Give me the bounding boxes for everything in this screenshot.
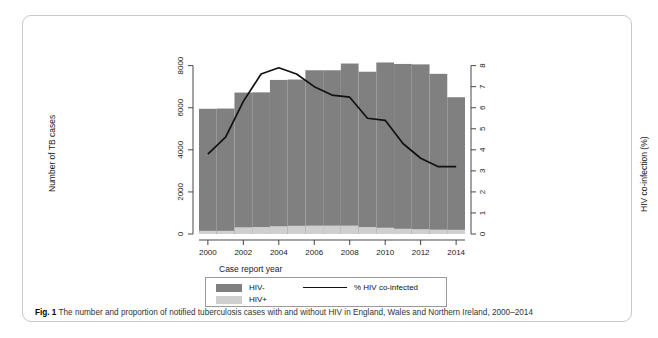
stacked-bar-chart-with-line: 0200040006000800001234567820002002200420…: [177, 38, 487, 308]
bar-hiv-negative-2008: [341, 64, 359, 234]
bar-hiv-positive-2003: [252, 227, 270, 234]
x-tick-label-2002: 2002: [234, 248, 252, 257]
chart-legend: HIV- HIV+ % HIV co-infected: [205, 277, 447, 307]
bar-hiv-positive-2001: [217, 231, 235, 234]
y2-tick-label-0: 0: [478, 231, 487, 236]
bar-hiv-negative-2005: [288, 80, 306, 234]
y2-tick-label-6: 6: [478, 105, 487, 110]
figure-card: Number of TB cases HIV co-infection (%) …: [22, 15, 632, 322]
figure-caption-text: The number and proportion of notified tu…: [59, 308, 533, 317]
bar-hiv-positive-2000: [199, 231, 217, 234]
bar-hiv-positive-2009: [359, 227, 377, 234]
legend-label-hiv-negative: HIV-: [249, 283, 265, 292]
bar-hiv-positive-2006: [305, 226, 323, 234]
x-tick-label-2004: 2004: [270, 248, 288, 257]
y-tick-label-2000: 2000: [177, 182, 185, 200]
bar-hiv-negative-2012: [412, 64, 430, 234]
bar-hiv-positive-2012: [412, 229, 430, 234]
x-tick-label-2012: 2012: [412, 248, 430, 257]
bar-hiv-negative-2010: [376, 62, 394, 234]
y-tick-label-8000: 8000: [177, 56, 185, 74]
y-tick-label-0: 0: [177, 231, 185, 236]
y2-tick-label-4: 4: [478, 147, 487, 152]
bar-hiv-negative-2006: [305, 70, 323, 234]
bar-hiv-positive-2002: [234, 227, 252, 234]
bar-hiv-positive-2005: [288, 226, 306, 234]
bar-hiv-negative-2014: [447, 97, 465, 234]
chart-plot-area: 0200040006000800001234567820002002200420…: [177, 38, 487, 308]
x-tick-label-2006: 2006: [305, 248, 323, 257]
y2-tick-label-3: 3: [478, 168, 487, 173]
legend-line-sample: [303, 287, 347, 288]
y2-tick-label-1: 1: [478, 210, 487, 215]
legend-item-co-infection-line: % HIV co-infected: [303, 283, 418, 292]
x-tick-label-2014: 2014: [447, 248, 465, 257]
legend-label-co-infection: % HIV co-infected: [354, 283, 418, 292]
y2-tick-label-7: 7: [478, 84, 487, 89]
y2-tick-label-5: 5: [478, 126, 487, 131]
legend-swatch-hiv-positive: [216, 296, 242, 304]
y-tick-label-4000: 4000: [177, 140, 185, 158]
y-tick-label-6000: 6000: [177, 98, 185, 116]
bar-hiv-positive-2013: [430, 230, 448, 234]
bar-hiv-negative-2000: [199, 109, 217, 234]
bar-hiv-positive-2014: [447, 230, 465, 234]
bar-hiv-negative-2001: [217, 109, 235, 234]
y2-tick-label-2: 2: [478, 189, 487, 194]
bar-hiv-positive-2008: [341, 226, 359, 234]
y-axis-left-title: Number of TB cases: [47, 115, 57, 192]
bar-hiv-negative-2013: [430, 74, 448, 234]
bar-hiv-negative-2003: [252, 92, 270, 234]
figure-caption: Fig. 1 The number and proportion of noti…: [35, 307, 621, 318]
figure-label: Fig. 1: [35, 308, 56, 317]
bar-hiv-positive-2011: [394, 229, 412, 234]
y2-tick-label-8: 8: [478, 63, 487, 68]
x-tick-label-2008: 2008: [341, 248, 359, 257]
bar-hiv-positive-2010: [376, 228, 394, 234]
x-tick-label-2000: 2000: [199, 248, 217, 257]
bar-hiv-negative-2009: [359, 72, 377, 234]
y-axis-right-title: HIV co-infection (%): [639, 136, 649, 212]
bar-hiv-positive-2004: [270, 226, 288, 234]
bar-hiv-negative-2004: [270, 80, 288, 234]
legend-swatch-hiv-negative: [216, 284, 242, 292]
legend-item-hiv-positive: HIV+: [216, 295, 267, 304]
legend-label-hiv-positive: HIV+: [249, 295, 267, 304]
chart-canvas: 0200040006000800001234567820002002200420…: [177, 38, 487, 308]
bar-hiv-positive-2007: [323, 226, 341, 234]
x-tick-label-2010: 2010: [376, 248, 394, 257]
legend-item-hiv-negative: HIV-: [216, 283, 265, 292]
